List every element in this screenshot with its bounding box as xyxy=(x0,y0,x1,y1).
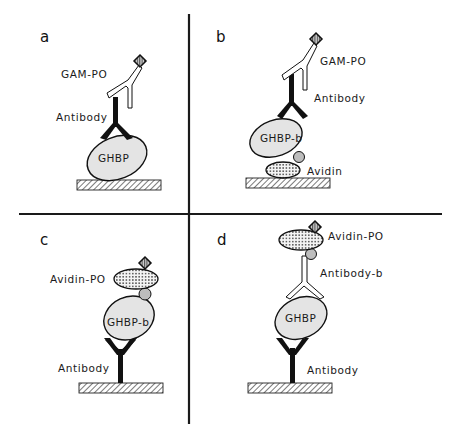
peroxidase-icon xyxy=(310,33,322,45)
ghbp-b-label: GHBP-b xyxy=(260,132,302,144)
panel-letter: b xyxy=(216,28,226,46)
ghbp-b-label: GHBP-b xyxy=(107,316,149,328)
gam-po-label: GAM-PO xyxy=(61,68,107,80)
secondary-antibody-icon xyxy=(107,65,142,108)
peroxidase-icon xyxy=(134,55,146,67)
ghbp-label: GHBP xyxy=(285,312,316,324)
gam-po-label: GAM-PO xyxy=(320,55,366,67)
avidin-po-label: Avidin-PO xyxy=(328,230,384,242)
avidin-po-label: Avidin-PO xyxy=(50,273,106,285)
secondary-antibody-icon xyxy=(282,43,317,90)
antibody-label: Antibody xyxy=(58,362,110,374)
avidin-label: Avidin xyxy=(307,165,343,177)
avidin-po-protein xyxy=(279,230,323,250)
biotinylated-antibody-icon xyxy=(286,256,324,299)
panel-b: b Avidin GHBP-b Antibody GAM-PO xyxy=(216,28,366,188)
plate-surface xyxy=(79,383,163,393)
panel-d: d Antibody GHBP Antibody-b Avidin-PO xyxy=(217,221,384,393)
panel-letter: d xyxy=(217,231,227,249)
antibody-label: Antibody xyxy=(56,111,108,123)
antibody-b-label: Antibody-b xyxy=(320,267,383,279)
panel-letter: a xyxy=(40,28,49,46)
capture-antibody-icon xyxy=(104,338,137,383)
plate-surface xyxy=(248,383,332,393)
plate-surface xyxy=(77,180,161,190)
antibody-label: Antibody xyxy=(314,92,366,104)
panel-a: a GHBP Antibody GAM-PO xyxy=(40,28,161,190)
peroxidase-icon xyxy=(139,257,151,269)
biotin-icon xyxy=(294,152,305,163)
capture-antibody-icon xyxy=(276,338,309,383)
panel-letter: c xyxy=(40,231,48,249)
panel-c: c Antibody GHBP-b Avidin-PO xyxy=(40,231,163,393)
ghbp-label: GHBP xyxy=(98,152,129,164)
biotin-icon xyxy=(139,288,151,300)
antibody-label: Antibody xyxy=(307,364,359,376)
plate-surface xyxy=(246,178,330,188)
avidin-po-protein xyxy=(114,269,158,289)
elisa-diagram: a GHBP Antibody GAM-PO b Avidin GHBP-b xyxy=(0,0,456,436)
avidin-protein xyxy=(266,162,300,178)
